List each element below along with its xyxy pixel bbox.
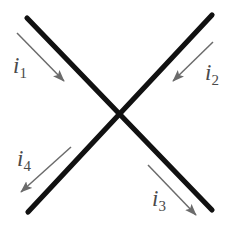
current-node-figure: i1 i2 i3 i4 [0, 0, 236, 233]
current-subscript-i4: 4 [23, 158, 31, 174]
current-arrows [17, 33, 213, 215]
current-label-i1: i1 [13, 54, 27, 77]
conductors [27, 15, 212, 212]
current-label-i2: i2 [205, 61, 219, 84]
current-subscript-i1: 1 [19, 65, 27, 81]
current-subscript-i2: 2 [211, 72, 219, 88]
current-label-i4: i4 [17, 147, 31, 170]
current-subscript-i3: 3 [158, 198, 166, 214]
figure-canvas [0, 0, 236, 233]
current-label-i3: i3 [152, 187, 166, 210]
